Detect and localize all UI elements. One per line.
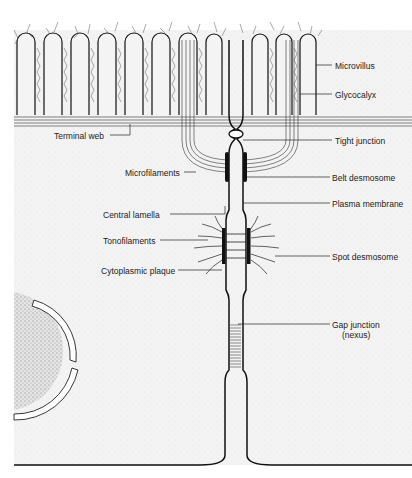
junction-diagram <box>0 0 412 478</box>
tight-junction-shape <box>229 130 243 138</box>
label-microvillus: Microvillus <box>335 61 375 71</box>
label-tonofilaments: Tonofilaments <box>103 236 155 246</box>
gap-junction-shape <box>230 325 241 367</box>
label-cytoplasmic-plaque: Cytoplasmic plaque <box>101 266 175 276</box>
label-gap-junction-nexus: (nexus) <box>342 330 370 340</box>
label-glycocalyx: Glycocalyx <box>335 90 376 100</box>
label-central-lamella: Central lamella <box>103 210 160 220</box>
label-belt-desmosome: Belt desmosome <box>332 173 395 183</box>
label-terminal-web: Terminal web <box>54 131 104 141</box>
label-gap-junction: Gap junction <box>332 320 380 330</box>
label-plasma-membrane: Plasma membrane <box>332 199 403 209</box>
label-microfilaments: Microfilaments <box>125 168 180 178</box>
label-spot-desmosome: Spot desmosome <box>332 252 398 262</box>
label-tight-junction: Tight junction <box>335 136 385 146</box>
microvilli-right <box>252 34 316 115</box>
